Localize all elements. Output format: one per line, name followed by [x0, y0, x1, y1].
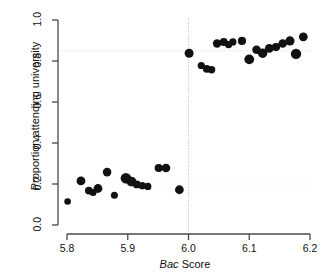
x-tick-label: 6.0: [172, 243, 206, 254]
data-point: [285, 36, 294, 45]
data-point: [238, 37, 246, 45]
data-point: [94, 184, 103, 193]
data-point: [155, 164, 163, 172]
x-tick-label: 6.1: [232, 243, 266, 254]
x-axis-title-italic: Bac: [160, 258, 179, 270]
scatter-plot-figure: 0.00.20.40.60.81.0 5.85.96.06.16.2 Propo…: [0, 0, 330, 280]
data-point: [299, 32, 308, 41]
data-point: [291, 49, 301, 59]
data-point: [144, 183, 151, 190]
data-point: [111, 192, 118, 199]
data-point: [64, 198, 71, 205]
data-point-group: [64, 32, 307, 204]
data-point: [229, 38, 236, 45]
data-point: [208, 66, 215, 73]
data-point: [175, 185, 184, 194]
x-axis-title: Bac Score: [60, 258, 310, 270]
x-axis-title-rest: Score: [179, 258, 211, 270]
x-tick-label: 5.9: [111, 243, 145, 254]
x-tick-label: 6.2: [293, 243, 327, 254]
data-point: [244, 54, 254, 64]
y-axis-title: Proportion attending university: [29, 16, 41, 216]
plot-canvas: [0, 0, 330, 280]
data-point: [162, 164, 171, 173]
axis-lines: [52, 20, 310, 240]
data-point: [185, 49, 194, 58]
data-point: [77, 177, 86, 186]
data-point: [103, 168, 112, 177]
x-tick-label: 5.8: [50, 243, 84, 254]
